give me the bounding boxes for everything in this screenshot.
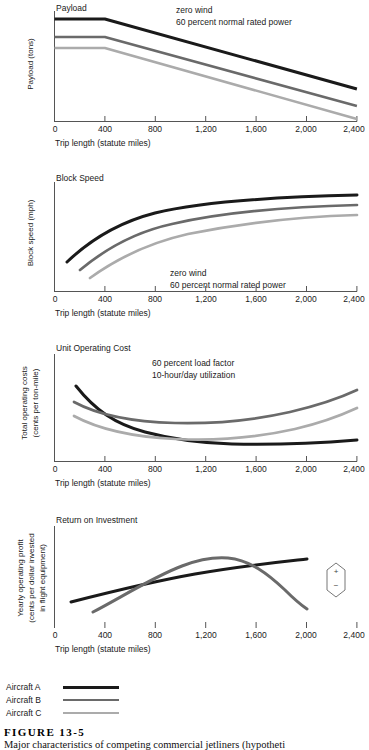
plot-area-return-on-investment	[0, 512, 369, 642]
chart-panel-return-on-investment: Return on Investment Yearly operating pr…	[0, 512, 369, 672]
x-tick-label-6: 2,400	[343, 464, 364, 474]
legend-item-aircraft-a: Aircraft A	[0, 681, 369, 694]
x-tick-label-5: 2,000	[295, 630, 316, 640]
series-line-aircraft-a	[71, 559, 307, 602]
x-tick-label-1: 400	[98, 464, 112, 474]
series-line-aircraft-b	[80, 205, 357, 270]
chart-panel-unit-operating-cost: Unit Operating Cost Total operating cost…	[0, 340, 369, 505]
legend-swatch-aircraft-b	[63, 699, 119, 701]
x-tick-label-2: 800	[148, 464, 162, 474]
x-tick-label-3: 1,200	[195, 464, 216, 474]
x-axis-ticks	[55, 116, 357, 122]
chart-panel-payload: Payload Payload (tons) zero wind 60 perc…	[0, 0, 369, 165]
x-axis-ticks	[55, 286, 357, 292]
x-tick-label-4: 1,600	[245, 630, 266, 640]
x-tick-label-3: 1,200	[195, 294, 216, 304]
legend-label-aircraft-b: Aircraft B	[6, 695, 41, 705]
x-tick-label-2: 800	[148, 124, 162, 134]
figure-number: FIGURE 13-5	[4, 726, 85, 738]
x-tick-label-2: 800	[148, 630, 162, 640]
x-tick-label-5: 2,000	[295, 294, 316, 304]
series-line-aircraft-a	[76, 386, 357, 444]
plot-area-block-speed	[0, 170, 369, 305]
plus-sign: +	[325, 567, 347, 576]
x-tick-label-0: 0	[53, 294, 58, 304]
plot-area-unit-operating-cost	[0, 340, 369, 475]
legend-item-aircraft-c: Aircraft C	[0, 707, 369, 720]
x-tick-label-3: 1,200	[195, 124, 216, 134]
x-tick-label-0: 0	[53, 464, 58, 474]
figure-caption: Major characteristics of competing comme…	[4, 739, 285, 750]
legend-item-aircraft-b: Aircraft B	[0, 694, 369, 707]
series-line-aircraft-c	[74, 408, 357, 440]
x-axis-label-block-speed: Trip length (statute miles)	[55, 308, 151, 318]
chart-panel-block-speed: Block Speed Block speed (mph) zero wind …	[0, 170, 369, 335]
series-line-aircraft-a	[55, 19, 357, 89]
legend-swatch-aircraft-a	[63, 686, 119, 689]
x-tick-label-1: 400	[98, 124, 112, 134]
series-line-aircraft-c	[90, 215, 357, 278]
x-axis-label-unit-operating-cost: Trip length (statute miles)	[55, 478, 151, 488]
x-tick-label-5: 2,000	[295, 464, 316, 474]
x-axis-label-payload: Trip length (statute miles)	[55, 138, 151, 148]
x-tick-label-1: 400	[98, 294, 112, 304]
x-tick-label-3: 1,200	[195, 630, 216, 640]
legend-label-aircraft-c: Aircraft C	[6, 708, 41, 718]
x-tick-label-2: 800	[148, 294, 162, 304]
legend-label-aircraft-a: Aircraft A	[6, 682, 40, 692]
series-line-aircraft-b	[74, 390, 357, 423]
x-tick-label-6: 2,400	[343, 294, 364, 304]
x-tick-label-0: 0	[53, 124, 58, 134]
plus-minus-badge: + −	[325, 562, 347, 598]
series-line-aircraft-b	[93, 558, 307, 612]
x-tick-label-4: 1,600	[245, 464, 266, 474]
x-axis-ticks	[55, 622, 357, 628]
x-tick-label-4: 1,600	[245, 294, 266, 304]
x-axis-ticks	[55, 456, 357, 462]
x-tick-label-6: 2,400	[343, 630, 364, 640]
x-tick-label-0: 0	[53, 630, 58, 640]
series-line-aircraft-c	[55, 48, 357, 119]
legend-swatch-aircraft-c	[63, 712, 119, 714]
chart-legend: Aircraft A Aircraft B Aircraft C	[0, 681, 369, 723]
x-axis-label-return-on-investment: Trip length (statute miles)	[55, 644, 151, 654]
x-tick-label-5: 2,000	[295, 124, 316, 134]
x-tick-label-4: 1,600	[245, 124, 266, 134]
x-tick-label-1: 400	[98, 630, 112, 640]
x-tick-label-6: 2,400	[343, 124, 364, 134]
plot-area-payload	[0, 0, 369, 135]
minus-sign: −	[325, 581, 347, 590]
